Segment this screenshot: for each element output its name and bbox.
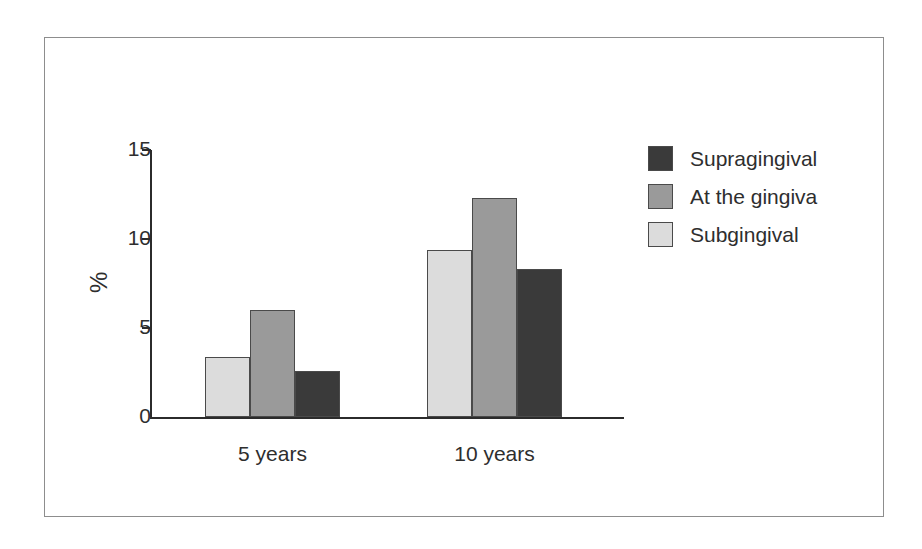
bar-supragingival-5-years	[295, 371, 340, 417]
bar-subgingival-5-years	[205, 357, 250, 417]
bar-at-the-gingiva-5-years	[250, 310, 295, 417]
legend-label: Subgingival	[690, 224, 799, 245]
legend-item-at-the-gingiva: At the gingiva	[648, 177, 817, 215]
bar-supragingival-10-years	[517, 269, 562, 417]
bar-at-the-gingiva-10-years	[472, 198, 517, 417]
chart-legend: SupragingivalAt the gingivaSubgingival	[648, 139, 817, 253]
legend-swatch-icon	[648, 146, 673, 171]
x-axis-line	[150, 417, 624, 419]
x-label-5-years: 5 years	[193, 443, 353, 464]
legend-item-supragingival: Supragingival	[648, 139, 817, 177]
legend-item-subgingival: Subgingival	[648, 215, 817, 253]
bar-subgingival-10-years	[427, 250, 472, 417]
legend-swatch-icon	[648, 184, 673, 209]
figure-container: 151050 % 5 years10 years SupragingivalAt…	[0, 0, 922, 549]
legend-swatch-icon	[648, 222, 673, 247]
legend-label: At the gingiva	[690, 186, 817, 207]
legend-label: Supragingival	[690, 148, 817, 169]
x-label-10-years: 10 years	[415, 443, 575, 464]
plot-area: 151050 % 5 years10 years SupragingivalAt…	[0, 0, 922, 549]
